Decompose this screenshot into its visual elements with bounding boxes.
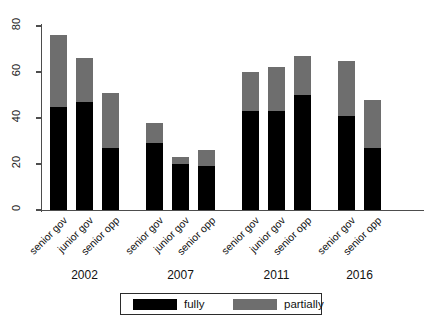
y-tick-label: 40 — [0, 110, 32, 122]
y-tick-label: 0 — [0, 202, 32, 214]
bar-2011-junior-gov — [268, 67, 285, 210]
legend-item-partially: partially — [233, 294, 324, 314]
bar-segment-fully — [50, 107, 67, 211]
bar-2016-senior-opp — [364, 100, 381, 210]
year-label-2011: 2011 — [242, 268, 312, 282]
bar-2007-senior-opp — [198, 150, 215, 210]
bar-2002-senior-gov — [50, 35, 67, 210]
bar-2016-senior-gov — [338, 61, 355, 211]
bar-2002-junior-gov — [76, 58, 93, 210]
bar-segment-partially — [102, 93, 119, 148]
bar-segment-fully — [102, 148, 119, 210]
bar-2007-junior-gov — [172, 157, 189, 210]
year-label-2016: 2016 — [325, 268, 395, 282]
legend-item-fully: fully — [133, 294, 204, 314]
bar-2011-senior-gov — [242, 72, 259, 210]
legend-swatch-fully — [133, 299, 177, 310]
bar-segment-partially — [364, 100, 381, 148]
bar-segment-partially — [50, 35, 67, 106]
y-tick-label-text: 40 — [10, 110, 22, 122]
legend-label: partially — [284, 298, 324, 310]
y-tick-label-text: 80 — [10, 18, 22, 30]
year-label-2002: 2002 — [50, 268, 120, 282]
bar-segment-fully — [294, 95, 311, 210]
bar-segment-fully — [242, 111, 259, 210]
y-tick-label-text: 0 — [10, 205, 22, 211]
x-axis-line — [42, 210, 424, 211]
bar-segment-partially — [146, 123, 163, 144]
bar-segment-partially — [294, 56, 311, 95]
legend-swatch-partially — [233, 299, 277, 310]
bar-segment-fully — [172, 164, 189, 210]
y-tick-label: 80 — [0, 18, 32, 30]
bar-segment-fully — [268, 111, 285, 210]
bar-2011-senior-opp — [294, 56, 311, 210]
bar-2002-senior-opp — [102, 93, 119, 210]
y-axis-line — [41, 24, 42, 212]
y-tick-label-text: 60 — [10, 64, 22, 76]
bar-segment-partially — [198, 150, 215, 166]
bar-segment-fully — [76, 102, 93, 210]
y-tick-label: 60 — [0, 64, 32, 76]
legend-label: fully — [184, 298, 204, 310]
bar-segment-fully — [146, 143, 163, 210]
y-tick-mark — [36, 71, 41, 72]
y-tick-label-text: 20 — [10, 156, 22, 168]
chart-legend: fullypartially — [120, 293, 322, 315]
bar-segment-partially — [172, 157, 189, 164]
bar-segment-partially — [338, 61, 355, 116]
y-tick-mark — [36, 25, 41, 26]
bar-segment-partially — [268, 67, 285, 111]
bar-segment-partially — [76, 58, 93, 102]
stacked-bar-chart: 020406080 senior govjunior govsenior opp… — [0, 0, 438, 326]
bar-2007-senior-gov — [146, 123, 163, 210]
y-tick-mark — [36, 209, 41, 210]
y-tick-mark — [36, 163, 41, 164]
bar-segment-fully — [364, 148, 381, 210]
bar-segment-fully — [338, 116, 355, 210]
y-tick-mark — [36, 117, 41, 118]
bar-segment-partially — [242, 72, 259, 111]
y-tick-label: 20 — [0, 156, 32, 168]
year-label-2007: 2007 — [146, 268, 216, 282]
bar-segment-fully — [198, 166, 215, 210]
